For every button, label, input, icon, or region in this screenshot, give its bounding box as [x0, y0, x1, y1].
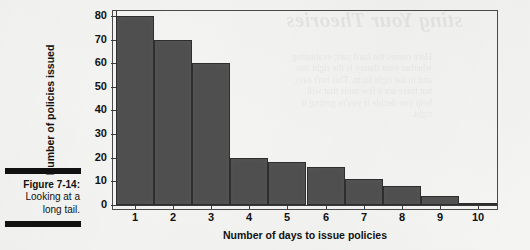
figure-caption: Figure 7-14: Looking at a long tail. — [5, 168, 81, 227]
x-tick-label-6: 6 — [313, 211, 339, 223]
bar-2 — [154, 40, 192, 205]
x-tick-label-1: 1 — [122, 211, 148, 223]
bar-1 — [116, 16, 154, 205]
x-tick-label-10: 10 — [465, 211, 491, 223]
x-tick-2 — [173, 205, 174, 209]
bar-9 — [421, 196, 459, 205]
x-tick-label-3: 3 — [198, 211, 224, 223]
x-tick-label-9: 9 — [427, 211, 453, 223]
x-tick-7 — [364, 205, 365, 209]
y-tick-80 — [111, 16, 116, 17]
caption-rule-bottom — [5, 221, 81, 227]
x-tick-label-5: 5 — [274, 211, 300, 223]
bar-3 — [192, 63, 230, 205]
y-tick-label-20: 20 — [83, 151, 107, 163]
x-axis-title: Number of days to issue policies — [112, 229, 498, 241]
caption-description: Looking at a long tail. — [5, 191, 80, 216]
x-tick-label-4: 4 — [236, 211, 262, 223]
y-tick-label-40: 40 — [83, 103, 107, 115]
bar-7 — [345, 179, 383, 205]
y-tick-40 — [111, 110, 116, 111]
x-tick-9 — [440, 205, 441, 209]
y-tick-60 — [111, 63, 116, 64]
x-tick-label-8: 8 — [389, 211, 415, 223]
y-tick-label-80: 80 — [83, 9, 107, 21]
y-tick-20 — [111, 158, 116, 159]
y-tick-10 — [111, 181, 116, 182]
y-tick-label-50: 50 — [83, 80, 107, 92]
bar-6 — [307, 167, 345, 205]
x-tick-label-2: 2 — [160, 211, 186, 223]
caption-text: Figure 7-14: Looking at a long tail. — [5, 174, 81, 221]
x-tick-label-7: 7 — [351, 211, 377, 223]
y-tick-label-70: 70 — [83, 33, 107, 45]
x-tick-4 — [249, 205, 250, 209]
y-tick-30 — [111, 134, 116, 135]
x-tick-1 — [135, 205, 136, 209]
y-axis-title: Number of policies issued — [44, 30, 56, 190]
caption-label: Figure 7-14: — [5, 179, 80, 191]
bar-5 — [268, 162, 306, 205]
y-tick-70 — [111, 40, 116, 41]
y-tick-label-0: 0 — [83, 198, 107, 210]
x-tick-3 — [211, 205, 212, 209]
x-tick-6 — [326, 205, 327, 209]
y-tick-0 — [111, 205, 116, 206]
bar-4 — [230, 158, 268, 205]
x-tick-10 — [478, 205, 479, 209]
y-tick-label-30: 30 — [83, 127, 107, 139]
y-tick-label-60: 60 — [83, 56, 107, 68]
bar-series — [116, 10, 497, 205]
y-tick-label-10: 10 — [83, 174, 107, 186]
x-tick-5 — [287, 205, 288, 209]
bar-8 — [383, 186, 421, 205]
x-tick-8 — [402, 205, 403, 209]
y-tick-50 — [111, 87, 116, 88]
